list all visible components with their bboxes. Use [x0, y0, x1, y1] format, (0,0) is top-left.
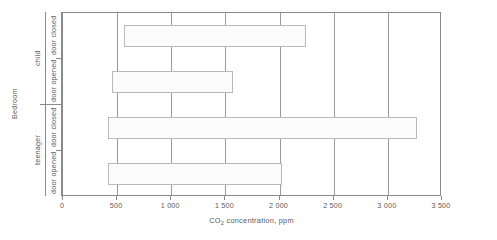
x-axis-title-subscript: 2: [221, 220, 224, 226]
x-axis-tick: [333, 196, 334, 200]
x-axis-tick: [116, 196, 117, 200]
x-axis-tick-label: 500: [86, 201, 146, 210]
bar-child-door-opened: [112, 71, 233, 93]
co2-concentration-bar-chart: Bedroom child teenager door closed door …: [0, 0, 497, 240]
x-axis-tick-label: 3 000: [357, 201, 417, 210]
x-axis-tick: [170, 196, 171, 200]
plot-area: [62, 12, 441, 196]
condition-label-child-door-closed: door closed: [47, 12, 59, 58]
x-axis-tick: [62, 196, 63, 200]
x-axis-tick-label: 2 500: [303, 201, 363, 210]
condition-label-child-door-opened: door opened: [47, 58, 59, 104]
bar-teenager-door-opened: [108, 163, 281, 185]
bar-teenager-door-closed: [108, 117, 417, 139]
x-axis-tick: [224, 196, 225, 200]
x-axis-title: CO2 concentration, ppm: [62, 216, 441, 225]
x-axis-tick-label: 1 000: [140, 201, 200, 210]
group-label-child: child: [31, 12, 44, 104]
condition-label-teenager-door-opened: door opened: [47, 150, 59, 196]
gridline: [388, 13, 389, 195]
x-axis-tick-label: 3 500: [411, 201, 471, 210]
group-label-teenager: teenager: [31, 104, 44, 196]
x-axis-tick: [441, 196, 442, 200]
x-axis-tick-label: 1 500: [194, 201, 254, 210]
gridline: [334, 13, 335, 195]
x-axis-title-prefix: CO: [209, 216, 221, 225]
x-axis-tick: [387, 196, 388, 200]
bar-child-door-closed: [124, 25, 306, 47]
condition-label-teenager-door-closed: door closed: [47, 104, 59, 150]
x-axis-title-suffix: concentration, ppm: [224, 216, 294, 225]
x-axis-tick-label: 2 000: [249, 201, 309, 210]
y-axis-title: Bedroom: [8, 12, 20, 196]
x-axis-tick-label: 0: [32, 201, 92, 210]
x-axis-tick: [279, 196, 280, 200]
